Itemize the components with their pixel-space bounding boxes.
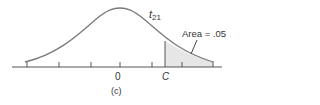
tick-label-zero: 0 [115,71,121,82]
curve-label: t21 [149,8,161,22]
curve-label-subscript: 21 [152,13,161,22]
shaded-tail-area [165,41,213,67]
tick-label-c: C [162,71,169,82]
area-annotation: Area = .05 [182,28,226,39]
area-pointer [191,40,197,54]
figure-caption: (c) [111,86,122,96]
